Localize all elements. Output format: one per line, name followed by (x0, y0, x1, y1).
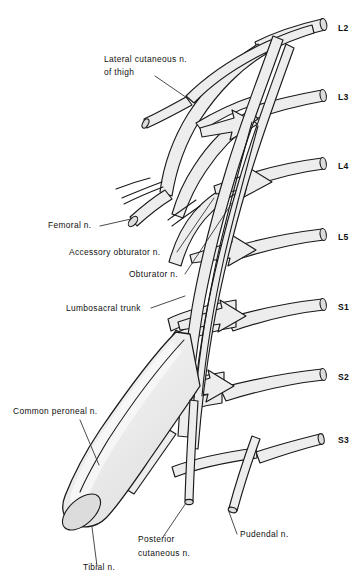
figure-background (0, 0, 362, 584)
root-label-s2: S2 (338, 372, 349, 382)
label-common-peroneal: Common peroneal n. (13, 406, 98, 416)
root-label-l3: L3 (338, 92, 349, 102)
label-femoral: Femoral n. (48, 220, 92, 230)
label-lumbosacral-trunk: Lumbosacral trunk (66, 303, 141, 313)
root-label-s1: S1 (338, 302, 349, 312)
root-label-l5: L5 (338, 232, 349, 242)
label-tibial: Tibial n. (83, 562, 115, 572)
root-label-l2: L2 (338, 23, 349, 33)
label-posterior-cutaneous-line2: cutaneous n. (138, 548, 190, 558)
label-accessory-obturator: Accessory obturator n. (69, 247, 161, 257)
label-posterior-cutaneous-line1: Posterior (138, 534, 175, 544)
label-obturator: Obturator n. (129, 269, 178, 279)
label-lateral-cutaneous-thigh-line2: of thigh (104, 67, 134, 77)
lumbosacral-plexus-figure: L2 L3 L4 L5 S1 S2 S3 Lateral cutaneous n… (0, 0, 362, 584)
cap-posterior-cutaneous (185, 499, 193, 504)
root-label-s3: S3 (338, 435, 349, 445)
label-pudendal: Pudendal n. (240, 529, 289, 539)
label-lateral-cutaneous-thigh-line1: Lateral cutaneous n. (104, 54, 187, 64)
root-label-l4: L4 (338, 161, 349, 171)
